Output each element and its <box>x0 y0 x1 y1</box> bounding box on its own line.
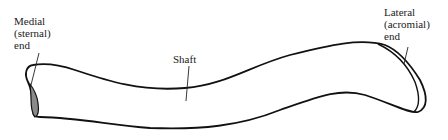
medial-label-line-2: (sternal) <box>14 27 51 39</box>
sternal-facet <box>30 84 38 117</box>
medial-label-line-1: Medial <box>14 15 51 27</box>
shaft-leader-line <box>186 66 189 101</box>
lateral-label-line-3: end <box>384 30 430 42</box>
medial-leader-line <box>31 53 39 85</box>
lateral-label-line-2: (acromial) <box>384 18 430 30</box>
medial-end-label: Medial (sternal) end <box>14 15 51 51</box>
shaft-label: Shaft <box>173 53 196 65</box>
clavicle-drawing <box>0 0 448 140</box>
lateral-end-label: Lateral (acromial) end <box>384 6 430 42</box>
clavicle-outline <box>26 42 426 128</box>
medial-label-line-3: end <box>14 39 51 51</box>
lateral-label-line-1: Lateral <box>384 6 430 18</box>
clavicle-diagram: Medial (sternal) end Shaft Lateral (acro… <box>0 0 448 140</box>
